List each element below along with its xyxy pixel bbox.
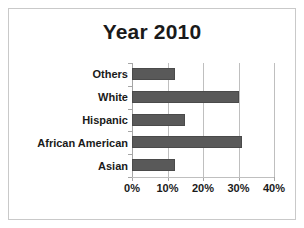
y-axis-label-asian: Asian (8, 161, 128, 172)
bar-others[interactable] (132, 68, 175, 80)
y-axis-label-hispanic: Hispanic (8, 115, 128, 126)
y-axis-label-others: Others (8, 69, 128, 80)
bar-row-others (132, 63, 274, 86)
bar-african-american[interactable] (132, 136, 242, 148)
bar-row-hispanic (132, 109, 274, 132)
gridline-40 (274, 63, 275, 177)
y-axis-labels: Others White Hispanic African American A… (9, 63, 128, 177)
bar-row-white (132, 86, 274, 109)
x-axis-label-30: 30% (219, 183, 259, 194)
y-axis-label-african-american: African American (8, 138, 128, 149)
bar-row-african-american (132, 131, 274, 154)
bar-row-asian (132, 154, 274, 177)
bar-white[interactable] (132, 91, 239, 103)
bar-asian[interactable] (132, 159, 175, 171)
y-axis-label-white: White (8, 92, 128, 103)
plot-area (132, 63, 274, 177)
x-tick-40 (274, 177, 275, 181)
x-axis-label-10: 10% (148, 183, 188, 194)
x-axis-baseline (132, 177, 274, 178)
chart-title: Year 2010 (9, 21, 295, 42)
x-axis-label-40: 40% (254, 183, 294, 194)
chart-frame: Year 2010 Others White Hispanic African … (8, 8, 296, 220)
bar-hispanic[interactable] (132, 114, 185, 126)
x-axis-label-20: 20% (183, 183, 223, 194)
x-axis-label-0: 0% (112, 183, 152, 194)
x-axis-labels: 0% 10% 20% 30% 40% (132, 183, 274, 199)
